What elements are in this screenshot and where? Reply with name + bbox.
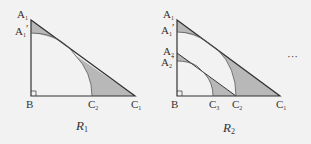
triangle-a1bc1 bbox=[177, 20, 280, 96]
label-b: B bbox=[26, 98, 33, 110]
label-a1: A1 bbox=[163, 8, 174, 21]
figure-label-r2: R2 bbox=[222, 120, 235, 136]
figure-r1: A1 A1′ B C2 C1 R1 bbox=[15, 8, 141, 134]
label-a2-prime: A2′ bbox=[161, 53, 174, 69]
diagram-canvas: A1 A1′ B C2 C1 R1 A1 A1′ A2 A2′ B C3 C2 … bbox=[0, 0, 311, 144]
label-c1: C1 bbox=[276, 98, 286, 111]
right-angle-mark bbox=[31, 91, 36, 96]
label-a1-prime: A1′ bbox=[15, 22, 28, 38]
label-a1-prime: A1′ bbox=[161, 21, 174, 37]
label-c3: C3 bbox=[209, 98, 219, 111]
label-c2: C2 bbox=[232, 98, 242, 111]
label-a1: A1 bbox=[17, 8, 28, 21]
figure-r2: A1 A1′ A2 A2′ B C3 C2 C1 R2 bbox=[161, 8, 286, 136]
label-c1: C1 bbox=[131, 98, 141, 111]
continuation-ellipsis: ··· bbox=[287, 50, 298, 62]
label-b: B bbox=[171, 98, 178, 110]
arc-a1prime-c2 bbox=[177, 32, 236, 96]
right-angle-mark bbox=[177, 91, 182, 96]
figure-label-r1: R1 bbox=[75, 118, 88, 134]
triangle-a1bc1 bbox=[31, 20, 135, 96]
label-c2: C2 bbox=[88, 98, 98, 111]
